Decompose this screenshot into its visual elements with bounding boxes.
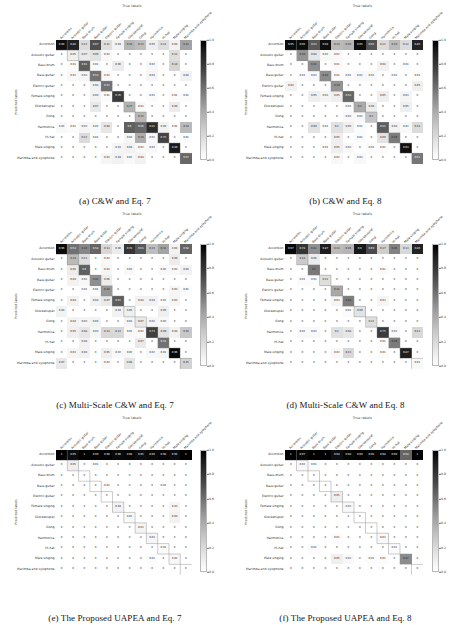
heatmap-row: 0000.010.050.0200.010.0100.930	[285, 143, 423, 153]
heatmap-cell: 0	[331, 460, 343, 470]
heatmap-cell: 0	[354, 296, 366, 306]
heatmap-cell: 0.01	[320, 143, 332, 153]
heatmap-cell: 0.42	[400, 554, 412, 564]
heatmap-cell: 0.05	[158, 306, 169, 316]
heatmap-cell: 0.02	[331, 153, 343, 163]
heatmap-cell: 0	[56, 338, 67, 348]
heatmap-cell: 0	[366, 327, 378, 337]
heatmap-cell: 0	[331, 481, 343, 491]
heatmap-cell: 0	[67, 112, 78, 122]
heatmap-cell: 0	[135, 460, 146, 470]
subplot-b: True labelsPredicted labelsAccordionAcou…	[230, 0, 461, 208]
heatmap-cell: 0	[285, 523, 297, 533]
heatmap-cell: 0	[158, 523, 169, 533]
colorbar: 1.00.80.60.40.20.0	[432, 40, 439, 160]
heatmap-cell: 0	[285, 254, 297, 264]
heatmap-cell: 0	[56, 523, 67, 533]
colorbar: 1.00.80.60.40.20.0	[200, 244, 207, 366]
heatmap-cell: 0	[135, 91, 146, 101]
heatmap-cell: 0	[366, 81, 378, 91]
heatmap-cell: 0.01	[101, 481, 112, 491]
heatmap-cell: 0.13	[343, 348, 355, 358]
heatmap-cell: 0.6	[79, 265, 90, 275]
colorbar-ticks: 1.00.80.60.40.20.0	[207, 450, 229, 572]
heatmap-cell: 0	[412, 512, 424, 522]
heatmap-cell: 0	[180, 50, 191, 60]
heatmap-cell: 0.09	[377, 133, 389, 143]
heatmap-cell: 0	[366, 122, 378, 132]
heatmap-row: 000000.02000000	[285, 502, 423, 512]
heatmap-cell: 0	[285, 564, 297, 574]
heatmap-cell: 0	[308, 523, 320, 533]
heatmap-cell: 0	[180, 306, 191, 316]
colorbar-tick-label: 0.0	[441, 364, 446, 368]
y-tick-label: Gong	[231, 320, 284, 323]
heatmap-cell: 0	[124, 275, 135, 285]
heatmap-cell: 0	[400, 338, 412, 348]
heatmap-cell: 0	[180, 81, 191, 91]
x-tick-label: Hi-hat	[161, 235, 170, 244]
heatmap-cell: 0	[285, 71, 297, 81]
heatmap-cell: 0	[400, 254, 412, 264]
heatmap-cell: 0	[67, 523, 78, 533]
heatmap-cell: 0	[412, 338, 424, 348]
heatmap-cell: 0	[285, 460, 297, 470]
heatmap-cell: 0	[331, 254, 343, 264]
heatmap-row: 000.120.01000.030.290.020.7200.01	[56, 133, 192, 143]
heatmap-cell: 0	[124, 544, 135, 554]
heatmap-cell: 0	[354, 554, 366, 564]
heatmap-cell: 0	[400, 71, 412, 81]
heatmap-cell: 0.25	[135, 112, 146, 122]
heatmap-cell: 0	[412, 544, 424, 554]
heatmap-cell: 0	[366, 275, 378, 285]
heatmap-row: 00.020.030.530.020000.03000.04	[56, 71, 192, 81]
y-tick-label: Acoustic guitar	[231, 464, 284, 467]
heatmap-cell: 0	[146, 544, 157, 554]
heatmap-cell: 0	[412, 554, 424, 564]
heatmap-cell: 0	[297, 286, 309, 296]
heatmap-row: 000.010.010.38000000.030.01	[56, 286, 192, 296]
heatmap-cell: 0	[412, 502, 424, 512]
heatmap-cell: 0	[158, 71, 169, 81]
heatmap-cell: 0	[101, 544, 112, 554]
heatmap-cell: 0	[377, 492, 389, 502]
colorbar-tick-label: 1.0	[441, 38, 446, 42]
heatmap-cell: 0.02	[56, 122, 67, 132]
heatmap: 0.950.950.630.940.240.260.950.650.120.24…	[285, 40, 423, 164]
heatmap-cell: 0	[101, 512, 112, 522]
heatmap-cell: 0	[146, 338, 157, 348]
heatmap-row: 00000.310000000	[285, 286, 423, 296]
heatmap-cell: 0.01	[308, 275, 320, 285]
heatmap-cell: 0	[101, 523, 112, 533]
y-tick-label: Acoustic guitar	[231, 54, 284, 57]
colorbar-tick-label: 0.6	[441, 291, 446, 295]
heatmap-cell: 0	[366, 153, 378, 163]
heatmap-cell: 0.61	[377, 122, 389, 132]
heatmap-cell: 0	[180, 471, 191, 481]
heatmap-cell: 0	[180, 348, 191, 358]
y-tick-label: Acoustic guitar	[1, 464, 55, 467]
heatmap-cell: 0	[56, 317, 67, 327]
heatmap-cell: 0	[343, 317, 355, 327]
heatmap-cell: 0	[112, 71, 123, 81]
heatmap-cell: 0	[56, 275, 67, 285]
heatmap-cell: 0	[67, 91, 78, 101]
heatmap-cell: 0	[285, 502, 297, 512]
y-tick-label: Harmonica	[1, 537, 55, 540]
heatmap-row: 0.040000.390000000.05	[285, 81, 423, 91]
heatmap-cell: 0	[90, 112, 101, 122]
heatmap-cell: 0	[297, 564, 309, 574]
heatmap-cell: 0	[366, 533, 378, 543]
plot-area: True labelsPredicted labelsAccordionAcou…	[230, 208, 461, 390]
heatmap-cell: 0.05	[400, 102, 412, 112]
heatmap-cell: 0.03	[331, 296, 343, 306]
colorbar-tick-label: 0.2	[441, 134, 446, 138]
heatmap-cell: 0	[354, 338, 366, 348]
heatmap-cell: 0.95	[297, 40, 309, 50]
heatmap-cell: 0.03	[101, 153, 112, 163]
heatmap-cell: 0	[56, 91, 67, 101]
heatmap-cell: 0	[169, 471, 180, 481]
heatmap-cell: 0.01	[90, 133, 101, 143]
heatmap-cell: 0.04	[135, 153, 146, 163]
colorbar-tick-label: 0.6	[441, 497, 446, 501]
